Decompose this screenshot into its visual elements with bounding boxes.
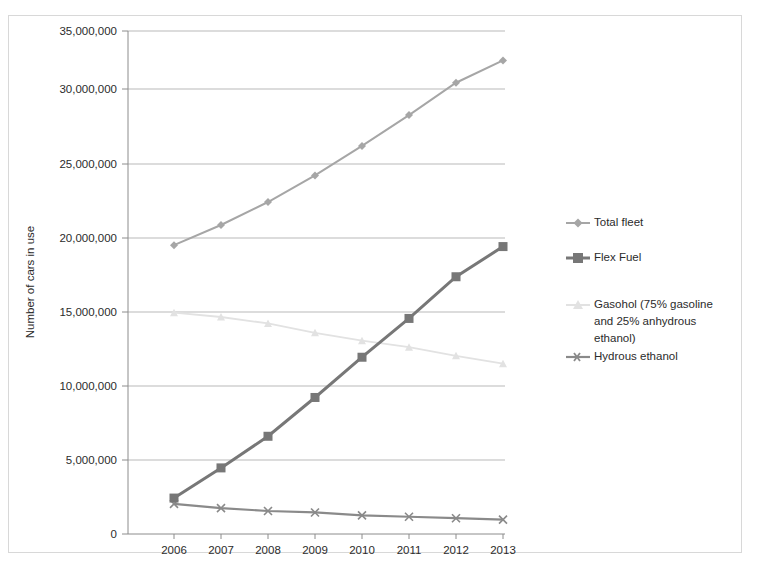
square-data-point bbox=[499, 242, 508, 251]
legend-label-hydrous-ethanol: Hydrous ethanol bbox=[594, 350, 678, 362]
y-axis-tick-labels: 35,000,000 30,000,000 25,000,000 20,000,… bbox=[59, 25, 117, 540]
x-tick-marks bbox=[174, 534, 503, 539]
chart-figure: 35,000,000 30,000,000 25,000,000 20,000,… bbox=[0, 0, 759, 570]
series-total-fleet bbox=[170, 56, 507, 249]
square-data-point bbox=[405, 314, 414, 323]
x-tick-label: 2007 bbox=[208, 544, 234, 556]
legend-item-hydrous-ethanol[interactable]: Hydrous ethanol bbox=[566, 350, 678, 362]
square-data-point bbox=[170, 494, 179, 503]
y-tick-label: 35,000,000 bbox=[59, 25, 117, 37]
square-marker-icon bbox=[573, 253, 583, 263]
square-data-point bbox=[264, 432, 273, 441]
y-tick-label: 0 bbox=[111, 528, 117, 540]
line-chart-canvas: 35,000,000 30,000,000 25,000,000 20,000,… bbox=[0, 0, 759, 570]
diamond-marker-icon bbox=[574, 219, 583, 228]
x-axis-tick-labels: 2006 2007 2008 2009 2010 2011 2012 2013 bbox=[161, 544, 516, 556]
x-tick-label: 2009 bbox=[302, 544, 328, 556]
legend-label-total-fleet: Total fleet bbox=[594, 216, 644, 228]
x-tick-label: 2012 bbox=[443, 544, 469, 556]
y-tick-label: 15,000,000 bbox=[59, 306, 117, 318]
diamond-data-point bbox=[499, 56, 507, 64]
series-hydrous-ethanol bbox=[170, 500, 507, 524]
y-tick-label: 30,000,000 bbox=[59, 83, 117, 95]
legend-item-gasohol[interactable]: Gasohol (75% gasoline and 25% anhydrous … bbox=[566, 298, 713, 344]
y-tick-label: 25,000,000 bbox=[59, 158, 117, 170]
legend-label-gasohol-line1: Gasohol (75% gasoline bbox=[594, 298, 713, 310]
y-tick-label: 20,000,000 bbox=[59, 232, 117, 244]
legend-label-gasohol-line3: ethanol) bbox=[594, 332, 636, 344]
y-tick-label: 10,000,000 bbox=[59, 380, 117, 392]
series-gasohol bbox=[170, 309, 507, 368]
x-tick-label: 2013 bbox=[490, 544, 516, 556]
diamond-data-point bbox=[264, 198, 272, 206]
x-tick-label: 2008 bbox=[255, 544, 281, 556]
y-axis-title: Number of cars in use bbox=[24, 226, 36, 339]
diamond-data-point bbox=[217, 221, 225, 229]
square-data-point bbox=[217, 463, 226, 472]
x-tick-label: 2011 bbox=[397, 544, 422, 556]
legend-label-gasohol-line2: and 25% anhydrous bbox=[594, 315, 697, 327]
legend-item-flex-fuel[interactable]: Flex Fuel bbox=[566, 251, 641, 263]
y-tick-marks bbox=[122, 31, 128, 534]
x-tick-label: 2006 bbox=[161, 544, 187, 556]
diamond-data-point bbox=[170, 241, 178, 249]
square-data-point bbox=[358, 353, 367, 362]
y-tick-label: 5,000,000 bbox=[66, 454, 117, 466]
x-tick-label: 2010 bbox=[349, 544, 375, 556]
legend-label-flex-fuel: Flex Fuel bbox=[594, 251, 641, 263]
series-flex-fuel bbox=[170, 242, 508, 503]
chart-legend: Total fleet Flex Fuel Gasohol (75% gasol… bbox=[566, 216, 713, 362]
square-data-point bbox=[452, 272, 461, 281]
square-data-point bbox=[311, 393, 320, 402]
legend-item-total-fleet[interactable]: Total fleet bbox=[566, 216, 644, 228]
